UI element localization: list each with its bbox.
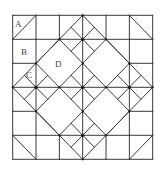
vertex-dot	[82, 62, 84, 64]
vertex-dot	[35, 62, 37, 64]
vertex-dot	[105, 134, 107, 136]
vertex-dot	[105, 38, 107, 40]
quilt-diagram: A B C D	[0, 0, 163, 169]
vertex-dot	[105, 86, 107, 88]
vertex-dot	[128, 86, 131, 89]
label-a: A	[15, 19, 22, 29]
large-diamond-edge	[106, 39, 129, 63]
vertex-dot	[58, 86, 60, 88]
vertex-dot	[128, 62, 130, 64]
vertex-dot	[128, 110, 130, 112]
vertex-dot	[82, 158, 84, 160]
vertex-dot	[58, 134, 60, 136]
label-d: D	[55, 59, 62, 69]
large-diamond-edge	[36, 111, 59, 135]
corner-diagonal	[13, 135, 36, 159]
vertex-dot	[82, 14, 84, 16]
vertex-dot	[81, 134, 84, 137]
vertex-dot	[81, 86, 84, 89]
vertex-dot	[82, 110, 84, 112]
vertex-dot	[34, 86, 37, 89]
vertex-dot	[12, 86, 14, 88]
label-c: C	[26, 70, 32, 80]
vertex-dot	[58, 38, 60, 40]
vertex-dot	[81, 38, 84, 41]
vertex-dot	[152, 86, 154, 88]
vertex-dot	[35, 110, 37, 112]
corner-diagonal	[129, 15, 152, 39]
corner-diagonal	[129, 135, 152, 159]
large-diamond-edge	[106, 111, 129, 135]
label-b: B	[21, 47, 27, 57]
